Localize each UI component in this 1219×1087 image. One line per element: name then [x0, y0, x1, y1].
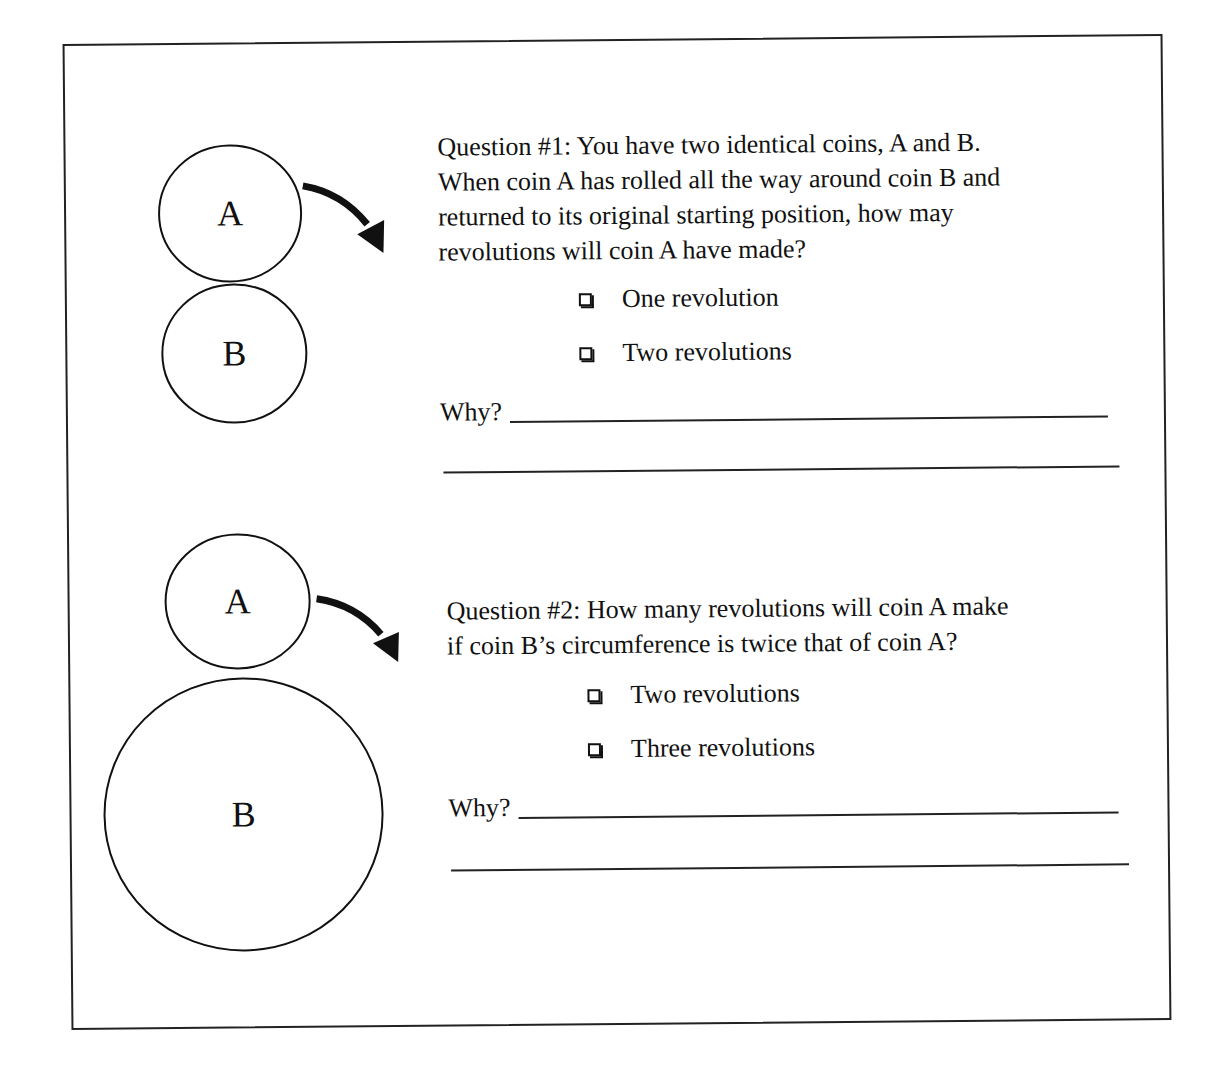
- q2-option-two-revolutions[interactable]: Two revolutions: [587, 678, 800, 710]
- question-2-line: Question #2: How many revolutions will c…: [447, 588, 1009, 628]
- question-1-line: Question #1: You have two identical coin…: [437, 125, 1000, 165]
- question-1-line: revolutions will coin A have made?: [438, 230, 1001, 270]
- option-label: Two revolutions: [622, 336, 792, 368]
- q2-answer-line-1[interactable]: [519, 811, 1119, 818]
- q1-coin-b: B: [162, 284, 307, 423]
- svg-text:A: A: [224, 581, 250, 621]
- q1-why-row: Why?: [440, 392, 1108, 428]
- question-2-text: Question #2: How many revolutions will c…: [447, 588, 1009, 663]
- q2-curved-arrow-icon: [317, 598, 400, 663]
- question-2-line: if coin B’s circumference is twice that …: [447, 623, 1009, 663]
- q2-why-row: Why?: [448, 787, 1118, 823]
- q2-coin-a: A: [165, 534, 310, 669]
- q1-answer-line-1[interactable]: [510, 416, 1108, 423]
- option-label: One revolution: [622, 283, 779, 314]
- why-label: Why?: [448, 793, 510, 824]
- checkbox-icon[interactable]: [579, 293, 592, 306]
- why-label: Why?: [440, 397, 502, 428]
- question-1-line: returned to its original starting positi…: [438, 195, 1001, 235]
- svg-text:B: B: [222, 333, 246, 373]
- option-label: Two revolutions: [630, 678, 800, 710]
- q1-option-one-revolution[interactable]: One revolution: [579, 283, 779, 315]
- question-1-line: When coin A has rolled all the way aroun…: [438, 160, 1001, 200]
- svg-text:B: B: [231, 794, 255, 834]
- svg-text:A: A: [217, 193, 243, 233]
- q2-option-three-revolutions[interactable]: Three revolutions: [588, 732, 815, 764]
- checkbox-icon[interactable]: [588, 743, 601, 756]
- question-1-text: Question #1: You have two identical coin…: [437, 125, 1001, 270]
- q1-coin-a: A: [158, 145, 301, 282]
- q2-coin-b: B: [103, 677, 383, 952]
- option-label: Three revolutions: [631, 732, 815, 764]
- q1-curved-arrow-icon: [303, 185, 385, 254]
- checkbox-icon[interactable]: [587, 689, 600, 702]
- worksheet-page: A B A B Question #1: You have two identi…: [0, 0, 1219, 1087]
- checkbox-icon[interactable]: [579, 347, 592, 360]
- q1-option-two-revolutions[interactable]: Two revolutions: [579, 336, 792, 368]
